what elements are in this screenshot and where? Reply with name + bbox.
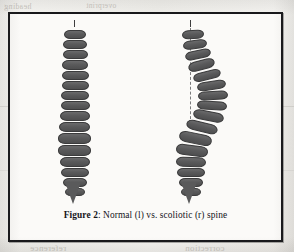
vertebra-normal-12 — [58, 145, 91, 156]
vertebra-normal-14 — [61, 168, 89, 177]
figure-frame: Figure 2: Normal (l) vs. scoliotic (r) s… — [8, 12, 283, 242]
bleed-text-line-9: reference — [30, 243, 66, 252]
vertebra-scoliotic-14 — [177, 168, 205, 177]
figure-caption-label: Figure 2 — [64, 210, 98, 220]
vertebra-normal-3 — [63, 50, 88, 59]
vertebra-normal-7 — [61, 91, 89, 100]
vertebra-normal-1 — [64, 30, 86, 39]
vertebra-normal-5 — [62, 71, 89, 80]
vertebra-normal-8 — [61, 101, 90, 110]
vertebra-normal-4 — [62, 60, 88, 70]
vertebra-normal-11 — [58, 133, 91, 144]
figure-caption-text: Normal (l) vs. scoliotic (r) spine — [103, 210, 227, 220]
vertebra-normal-6 — [62, 81, 89, 90]
spine-diagram-normal — [22, 14, 142, 214]
spine-top-tick-scoliotic — [190, 20, 191, 27]
bleed-text-line-1: overprint — [86, 1, 116, 10]
vertebra-normal-13 — [60, 157, 90, 167]
vertebra-normal-2 — [63, 40, 87, 49]
vertebra-normal-9 — [60, 111, 90, 121]
spine-diagram-scoliotic — [148, 14, 268, 214]
vertebra-normal-10 — [59, 122, 90, 132]
scanned-document-page: heading overprint purpose Figure 1 spina… — [0, 0, 294, 252]
figure-content: Figure 2: Normal (l) vs. scoliotic (r) s… — [10, 14, 281, 240]
bleed-text-heading: heading — [4, 2, 31, 11]
vertebra-scoliotic-7 — [198, 90, 228, 101]
bleed-text-line-10: correction — [185, 243, 224, 252]
spine-top-tick-normal — [74, 20, 75, 27]
sacrum-normal — [65, 182, 81, 204]
figure-caption: Figure 2: Normal (l) vs. scoliotic (r) s… — [10, 210, 281, 220]
vertebra-scoliotic-13 — [176, 156, 206, 167]
sacrum-scoliotic — [181, 182, 197, 204]
